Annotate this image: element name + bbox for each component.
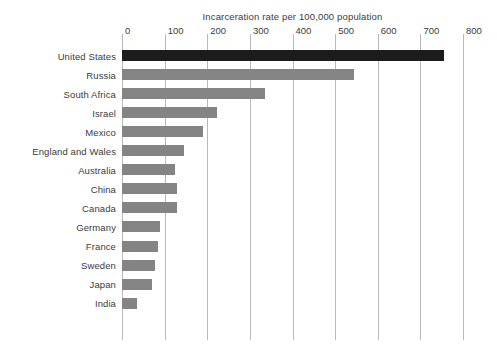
bar-united-states [122,50,444,61]
plot-area [122,34,463,340]
bar-france [122,241,158,252]
chart-title: Incarceration rate per 100,000 populatio… [122,11,463,22]
category-label-mexico: Mexico [0,127,116,138]
category-label-russia: Russia [0,70,116,81]
category-label-england-and-wales: England and Wales [0,146,116,157]
gridline-800 [463,34,464,340]
bar-canada [122,202,177,213]
category-label-united-states: United States [0,51,116,62]
bar-australia [122,164,175,175]
bar-russia [122,69,354,80]
category-labels: United StatesRussiaSouth AfricaIsraelMex… [0,34,119,340]
category-label-south-africa: South Africa [0,89,116,100]
category-label-china: China [0,184,116,195]
bar-germany [122,221,160,232]
category-label-israel: Israel [0,108,116,119]
incarceration-rate-bar-chart: Incarceration rate per 100,000 populatio… [0,0,497,346]
x-tick-label-800: 800 [466,25,482,36]
category-label-australia: Australia [0,165,116,176]
bar-mexico [122,126,203,137]
category-label-japan: Japan [0,279,116,290]
bars-group [122,34,463,340]
bar-england-and-wales [122,145,184,156]
bar-india [122,298,137,309]
category-label-germany: Germany [0,222,116,233]
category-label-sweden: Sweden [0,260,116,271]
category-label-france: France [0,241,116,252]
bar-israel [122,107,217,118]
bar-japan [122,279,152,290]
category-label-india: India [0,298,116,309]
category-label-canada: Canada [0,203,116,214]
bar-sweden [122,260,155,271]
bar-south-africa [122,88,265,99]
bar-china [122,183,177,194]
